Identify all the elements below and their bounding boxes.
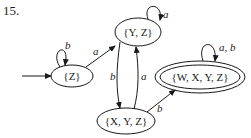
state-z: {Z} xyxy=(51,65,93,87)
svg-text:{W, X, Y, Z}: {W, X, Y, Z} xyxy=(171,71,228,83)
svg-text:{Z}: {Z} xyxy=(63,70,80,82)
svg-text:{X, Y, Z}: {X, Y, Z} xyxy=(105,115,147,127)
svg-text:b: b xyxy=(65,39,71,51)
transition-xyz-wxyz: b xyxy=(147,90,175,114)
state-graph: {Z} b a {Y, Z} a b a xyxy=(0,0,251,138)
svg-text:a: a xyxy=(93,45,99,57)
svg-text:a: a xyxy=(163,8,169,20)
transition-z-z: b xyxy=(57,39,71,67)
transition-yz-yz: a xyxy=(147,6,169,20)
problem-number: 15. xyxy=(3,3,19,19)
transition-z-yz: a xyxy=(86,45,115,67)
state-yz: {Y, Z} xyxy=(115,18,161,46)
svg-text:{Y, Z}: {Y, Z} xyxy=(123,26,152,38)
state-xyz: {X, Y, Z} xyxy=(97,108,155,134)
dfa-diagram: 15. {Z} b a {Y, Z} xyxy=(0,0,251,138)
transition-yz-xyz: b xyxy=(110,42,120,108)
svg-text:a: a xyxy=(141,70,147,82)
transition-xyz-yz: a xyxy=(134,47,147,109)
transition-wxyz-wxyz: a, b xyxy=(202,41,236,61)
svg-text:a, b: a, b xyxy=(219,41,236,53)
svg-text:b: b xyxy=(110,70,116,82)
svg-text:b: b xyxy=(157,102,163,114)
state-wxyz-accepting: {W, X, Y, Z} xyxy=(155,61,245,93)
